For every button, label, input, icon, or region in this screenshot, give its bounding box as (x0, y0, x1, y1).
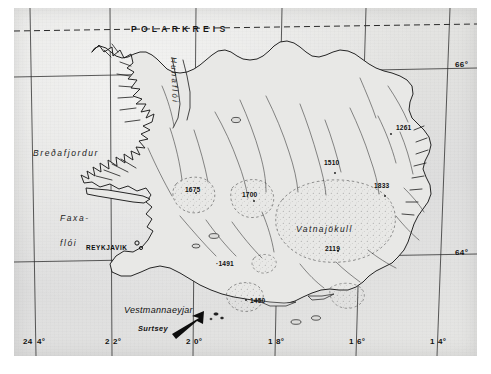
glacier-east-small (330, 283, 365, 308)
map-container: POLARKREIS Breðafjordur Faxa- flói Hunaf… (0, 0, 491, 374)
surtsey-arrow (172, 311, 204, 339)
glacier-myrdalsjokull (226, 283, 263, 312)
arctic-circle-line (14, 24, 477, 31)
glacier-vatnajokull (276, 180, 396, 262)
vestmannaeyjar-islands (210, 313, 224, 320)
glacier-eyjafjallajokull (252, 254, 276, 273)
map-vector-layer (0, 0, 491, 374)
reykjavik-marker (135, 241, 139, 245)
